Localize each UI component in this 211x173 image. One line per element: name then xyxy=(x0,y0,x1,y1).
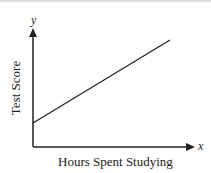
x-axis-arrow-icon xyxy=(186,143,195,151)
x-axis-label: Hours Spent Studying xyxy=(58,154,173,170)
data-line xyxy=(33,40,170,123)
x-axis-symbol: x xyxy=(198,139,203,154)
y-axis-symbol: y xyxy=(31,13,36,28)
y-axis-label: Test Score xyxy=(8,58,24,118)
y-axis-arrow-icon xyxy=(29,28,37,37)
